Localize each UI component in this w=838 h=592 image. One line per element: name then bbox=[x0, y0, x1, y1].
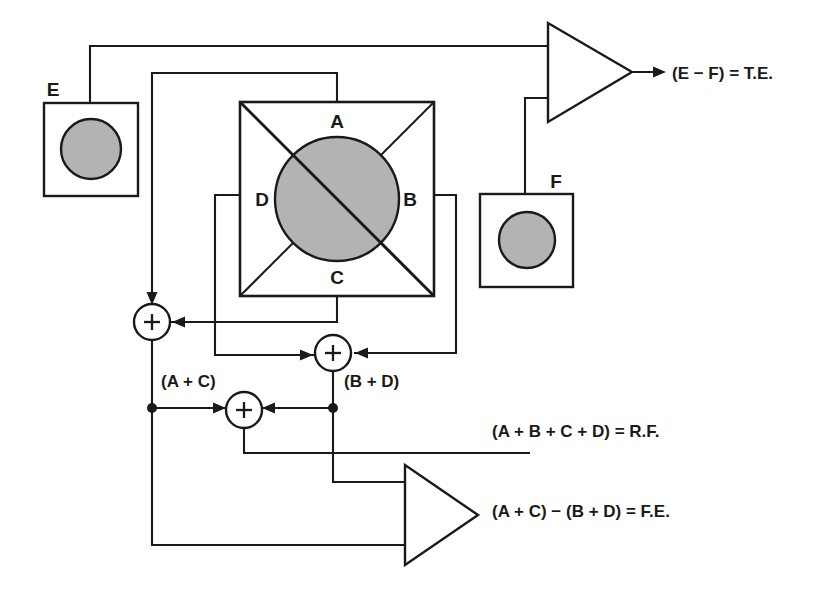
arrow-bd-into-rf-summer bbox=[262, 403, 275, 414]
photodiode-e-label: E bbox=[47, 79, 60, 100]
quadrant-label-a: A bbox=[330, 111, 344, 132]
quadrant-label-c: C bbox=[330, 267, 344, 288]
summer-ac bbox=[134, 304, 170, 340]
wire-c-to-sum-ac bbox=[172, 296, 337, 322]
label-a-plus-c: (A + C) bbox=[161, 372, 216, 391]
wire-f-to-amp bbox=[525, 98, 548, 194]
label-b-plus-d: (B + D) bbox=[344, 372, 399, 391]
output-label-fe: (A + C) − (B + D) = F.E. bbox=[492, 502, 670, 521]
quadrant-label-b: B bbox=[403, 189, 417, 210]
arrow-d-into-summer bbox=[300, 350, 313, 361]
photodiode-f bbox=[480, 194, 573, 287]
arrow-b-into-summer bbox=[355, 348, 368, 359]
diagram-canvas: E F A B C D (E − F) = T.E. bbox=[0, 0, 838, 592]
photodiode-e bbox=[44, 103, 138, 196]
junction-dot-ac bbox=[147, 403, 157, 413]
differential-amp-te bbox=[548, 23, 632, 122]
differential-amp-fe bbox=[405, 465, 478, 565]
arrow-a-into-summer bbox=[147, 292, 158, 305]
wire-ac-output bbox=[152, 340, 405, 545]
output-label-rf: (A + B + C + D) = R.F. bbox=[492, 422, 660, 441]
quadrant-label-d: D bbox=[255, 189, 269, 210]
quadrant-detector-diagram: E F A B C D (E − F) = T.E. bbox=[0, 0, 838, 592]
wire-rf-output bbox=[244, 428, 529, 453]
summer-bd bbox=[315, 335, 351, 371]
summer-rf bbox=[226, 392, 262, 428]
arrow-te-output bbox=[653, 67, 666, 78]
arrow-c-into-summer bbox=[172, 317, 185, 328]
junction-dot-bd bbox=[328, 403, 338, 413]
differential-amp-te-body bbox=[548, 23, 632, 122]
output-label-te: (E − F) = T.E. bbox=[672, 64, 773, 83]
photodiode-f-disc bbox=[499, 212, 555, 268]
arrow-ac-into-rf-summer bbox=[213, 403, 226, 414]
photodiode-e-disc bbox=[61, 119, 121, 179]
wire-e-to-amp bbox=[90, 46, 548, 103]
photodiode-f-label: F bbox=[550, 171, 562, 192]
differential-amp-fe-body bbox=[405, 465, 478, 565]
